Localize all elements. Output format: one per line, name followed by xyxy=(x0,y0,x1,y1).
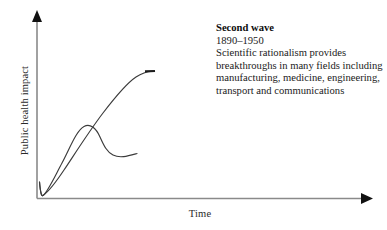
x-axis-label: Time xyxy=(160,208,240,219)
second-wave-curve xyxy=(40,71,153,195)
first-wave-curve xyxy=(40,125,138,195)
x-axis-arrowhead xyxy=(361,193,373,204)
annotation-heading: Second wave xyxy=(216,22,384,35)
y-axis-arrowhead xyxy=(32,10,42,22)
wave-diagram-figure: Public health impact Time Second wave 18… xyxy=(0,0,387,230)
annotation-block: Second wave 1890–1950 Scientific rationa… xyxy=(216,22,384,98)
y-axis-label: Public health impact xyxy=(19,41,30,181)
annotation-body: Scientific rationalism provides breakthr… xyxy=(216,47,384,97)
annotation-period: 1890–1950 xyxy=(216,35,384,48)
